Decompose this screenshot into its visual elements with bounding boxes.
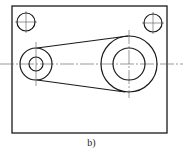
figure-caption: b) [0, 137, 183, 148]
technical-drawing [0, 0, 183, 155]
tangent-top [37, 36, 128, 48]
